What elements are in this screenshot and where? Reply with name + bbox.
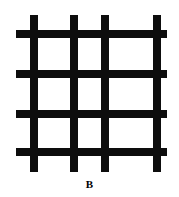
horizontal-bar bbox=[16, 110, 167, 118]
grid-lattice-diagram bbox=[0, 0, 179, 197]
diagram-background bbox=[0, 0, 179, 197]
horizontal-bar bbox=[16, 148, 167, 156]
horizontal-bar bbox=[16, 30, 167, 38]
horizontal-bar bbox=[16, 70, 167, 78]
figure-label: B bbox=[0, 179, 179, 190]
figure-container: B bbox=[0, 0, 179, 197]
